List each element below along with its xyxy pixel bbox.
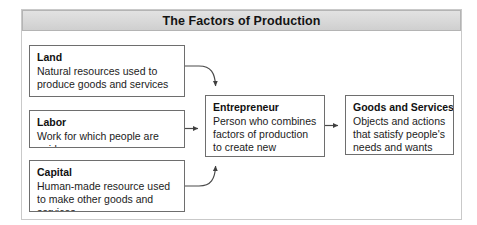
concept-box-entrepreneur-title: Entrepreneur [213, 101, 317, 114]
concept-box-goods-and-services-title: Goods and Services [353, 101, 446, 114]
concept-box-land-title: Land [37, 51, 177, 64]
concept-box-capital-title: Capital [37, 166, 177, 179]
concept-box-entrepreneur: Entrepreneur Person who combines factors… [205, 95, 325, 157]
concept-box-land: Land Natural resources used to produce g… [29, 45, 185, 97]
concept-box-labor-title: Labor [37, 116, 177, 129]
concept-box-goods-and-services: Goods and Services Objects and actions t… [345, 95, 454, 155]
concept-box-land-body: Natural resources used to produce goods … [37, 65, 177, 91]
concept-box-labor: Labor Work for which people are paid [29, 110, 185, 148]
concept-box-capital-body: Human-made resource used to make other g… [37, 180, 177, 212]
figure-title: The Factors of Production [162, 14, 320, 28]
figure-title-bar: The Factors of Production [22, 10, 461, 31]
concept-box-capital: Capital Human-made resource used to make… [29, 160, 185, 212]
concept-box-labor-body: Work for which people are paid [37, 130, 177, 148]
factors-of-production-diagram: The Factors of Production Land Natural r… [0, 0, 477, 225]
concept-box-entrepreneur-body: Person who combines factors of productio… [213, 115, 317, 157]
concept-box-goods-and-services-body: Objects and actions that satisfy people'… [353, 115, 446, 155]
